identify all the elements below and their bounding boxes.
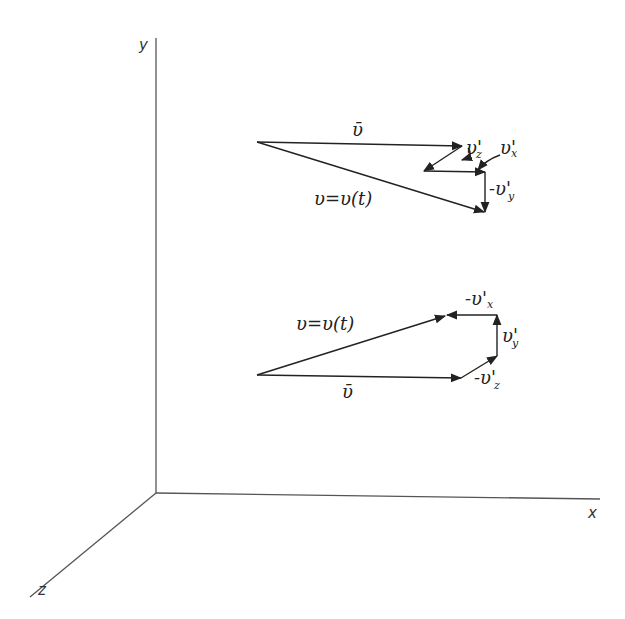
upper-vector-figure: ῡ υ=υ(t) υ' z υ' x -υ' y [257,119,518,212]
mean-velocity-arrow [257,375,461,378]
svg-text:y: y [507,190,515,203]
svg-text:x: x [511,147,518,160]
lower-instant-velocity-label: υ=υ(t) [296,313,354,334]
velocity-fluctuation-diagram: y x z ῡ υ=υ(t) υ' z υ' x -υ [0,0,625,619]
upper-mean-velocity-label: ῡ [352,119,363,140]
svg-text:-υ': -υ' [474,367,496,388]
upper-vz-label: υ' z [466,137,482,161]
lower-neg-vz-label: -υ' z [474,367,500,392]
vx-prime-arrow [424,171,485,172]
lower-vy-label: υ' y [502,325,519,350]
vz-prime-arrow [424,146,462,171]
upper-vx-label: υ' x [500,137,518,160]
svg-text:-υ': -υ' [465,288,487,309]
svg-text:z: z [493,379,500,392]
x-axis [156,493,600,499]
diagram-canvas: y x z ῡ υ=υ(t) υ' z υ' x -υ [0,0,625,619]
upper-instant-velocity-label: υ=υ(t) [314,188,372,209]
svg-text:y: y [511,337,519,350]
lower-mean-velocity-label: ῡ [342,381,353,402]
x-axis-label: x [587,504,597,522]
svg-text:z: z [475,148,482,161]
y-axis-label: y [138,36,149,54]
z-axis-label: z [37,581,47,599]
mean-velocity-arrow [257,142,462,146]
svg-text:x: x [487,298,494,311]
upper-neg-vy-label: -υ' y [489,178,515,203]
z-axis [30,493,156,597]
lower-vector-figure: ῡ υ=υ(t) -υ' z υ' y -υ' x [257,288,519,402]
lower-neg-vx-label: -υ' x [465,288,494,311]
